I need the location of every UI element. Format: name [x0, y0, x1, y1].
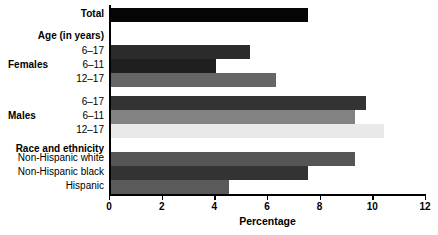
bar-hispanic: [111, 180, 229, 194]
category-label-12-17: 12–17: [76, 124, 104, 135]
bar-12-17: [111, 73, 277, 87]
x-tick-label-4: 4: [212, 201, 218, 213]
bar-non-hispanic-black: [111, 166, 308, 180]
category-label-6-17: 6–17: [82, 96, 104, 107]
category-label-hispanic: Hispanic: [66, 180, 104, 191]
category-label-12-17: 12–17: [76, 73, 104, 84]
category-label-6-11: 6–11: [82, 59, 104, 70]
category-label-6-17: 6–17: [82, 45, 104, 56]
x-tick-label-2: 2: [159, 201, 165, 213]
x-tick-label-8: 8: [317, 201, 323, 213]
plot-area: 024681012: [109, 0, 426, 195]
group-label-males: Males: [8, 110, 36, 121]
category-label-column: TotalAge (in years)6–176–1112–176–176–11…: [0, 0, 106, 195]
bar-6-17: [111, 45, 251, 59]
category-label-non-hispanic-black: Non-Hispanic black: [18, 166, 104, 177]
x-tick-8: [320, 195, 321, 200]
category-label-total: Total: [81, 8, 104, 19]
x-tick-10: [372, 195, 373, 200]
bar-6-17: [111, 96, 366, 110]
bar-12-17: [111, 124, 385, 138]
category-label-6-11: 6–11: [82, 110, 104, 121]
bar-non-hispanic-white: [111, 152, 356, 166]
x-tick-4: [214, 195, 215, 200]
x-tick-label-0: 0: [106, 201, 112, 213]
x-tick-label-12: 12: [419, 201, 430, 213]
category-label-non-hispanic-white: Non-Hispanic white: [18, 152, 104, 163]
horizontal-bar-chart: TotalAge (in years)6–176–1112–176–176–11…: [0, 0, 438, 235]
bar-total: [111, 8, 308, 22]
x-tick-12: [425, 195, 426, 200]
x-tick-6: [267, 195, 268, 200]
x-tick-0: [109, 195, 110, 200]
x-axis-title: Percentage: [109, 215, 426, 227]
group-label-females: Females: [8, 59, 48, 70]
bar-6-11: [111, 59, 216, 73]
bar-6-11: [111, 110, 356, 124]
x-tick-label-10: 10: [367, 201, 378, 213]
x-tick-label-6: 6: [264, 201, 270, 213]
category-label-age-in-years: Age (in years): [38, 30, 104, 41]
x-tick-2: [162, 195, 163, 200]
